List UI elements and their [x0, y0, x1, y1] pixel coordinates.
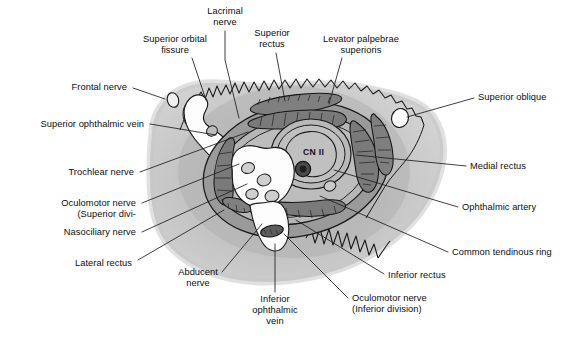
label-superior-rectus-line-1: Superior — [243, 28, 301, 39]
label-lacrimal-nerve: Lacrimalnerve — [194, 6, 256, 28]
label-ophthalmic-artery-line-1: Ophthalmic artery — [462, 202, 560, 213]
label-lateral-rectus: Lateral rectus — [48, 258, 132, 269]
label-common-tendinous-ring: Common tendinous ring — [452, 247, 568, 258]
inline-label-optic-nerve: CN II — [303, 147, 324, 157]
label-trochlear-nerve-line-1: Trochlear nerve — [42, 167, 134, 178]
label-superior-orbital-fissure-line-2: fissure — [127, 45, 223, 56]
label-oculomotor-nerve-inferior-division: Oculomotor nerve(Inferior division) — [352, 293, 458, 315]
label-abducent-nerve-line-2: nerve — [168, 278, 228, 289]
label-oculomotor-nerve-superior-division-line-2: (Superior divi- — [32, 209, 136, 220]
label-superior-orbital-fissure-line-1: Superior orbital — [127, 34, 223, 45]
label-inferior-rectus: Inferior rectus — [388, 270, 470, 281]
label-ophthalmic-artery: Ophthalmic artery — [462, 202, 560, 213]
label-frontal-nerve-line-1: Frontal nerve — [44, 82, 127, 93]
label-superior-oblique-line-1: Superior oblique — [478, 92, 568, 103]
label-levator-palpebrae-superioris-line-2: superioris — [306, 45, 416, 56]
label-abducent-nerve-line-1: Abducent — [168, 267, 228, 278]
label-inferior-ophthalmic-vein-line-3: vein — [244, 316, 306, 327]
label-superior-ophthalmic-vein-line-1: Superior ophthalmic vein — [10, 119, 144, 130]
label-oculomotor-nerve-inferior-division-line-2: (Inferior division) — [352, 304, 458, 315]
label-lacrimal-nerve-line-1: Lacrimal — [194, 6, 256, 17]
label-medial-rectus-line-1: Medial rectus — [470, 161, 550, 172]
label-oculomotor-nerve-superior-division: Oculomotor nerve(Superior divi- — [32, 198, 136, 220]
label-superior-rectus-line-2: rectus — [243, 39, 301, 50]
label-frontal-nerve: Frontal nerve — [44, 82, 127, 93]
label-lateral-rectus-line-1: Lateral rectus — [48, 258, 132, 269]
label-superior-orbital-fissure: Superior orbitalfissure — [127, 34, 223, 56]
label-inferior-ophthalmic-vein-line-1: Inferior — [244, 294, 306, 305]
label-levator-palpebrae-superioris-line-1: Levator palpebrae — [306, 34, 416, 45]
label-trochlear-nerve: Trochlear nerve — [42, 167, 134, 178]
label-inferior-ophthalmic-vein: Inferiorophthalmicvein — [244, 294, 306, 328]
label-oculomotor-nerve-superior-division-line-1: Oculomotor nerve — [32, 198, 136, 209]
label-superior-rectus: Superiorrectus — [243, 28, 301, 50]
label-superior-oblique: Superior oblique — [478, 92, 568, 103]
label-medial-rectus: Medial rectus — [470, 161, 550, 172]
label-common-tendinous-ring-line-1: Common tendinous ring — [452, 247, 568, 258]
label-levator-palpebrae-superioris: Levator palpebraesuperioris — [306, 34, 416, 56]
label-inferior-rectus-line-1: Inferior rectus — [388, 270, 470, 281]
label-abducent-nerve: Abducentnerve — [168, 267, 228, 289]
label-superior-ophthalmic-vein: Superior ophthalmic vein — [10, 119, 144, 130]
label-nasociliary-nerve-line-1: Nasociliary nerve — [36, 227, 136, 238]
label-nasociliary-nerve: Nasociliary nerve — [36, 227, 136, 238]
orbital-apex-figure: LacrimalnerveSuperior orbitalfissureSupe… — [0, 0, 568, 342]
label-lacrimal-nerve-line-2: nerve — [194, 17, 256, 28]
label-oculomotor-nerve-inferior-division-line-1: Oculomotor nerve — [352, 293, 458, 304]
leader-frontal-nerve — [133, 88, 165, 99]
label-inferior-ophthalmic-vein-line-2: ophthalmic — [244, 305, 306, 316]
